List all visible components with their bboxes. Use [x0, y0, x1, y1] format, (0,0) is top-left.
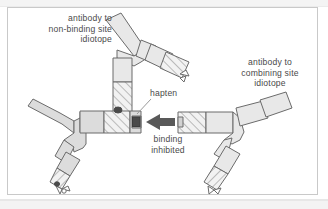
- label-combining-site-idiotope: antibody to combining site idiotope: [222, 57, 318, 89]
- hapten-leader-line: [137, 99, 151, 114]
- figure-root: antibody to non-binding site idiotope an…: [0, 0, 328, 209]
- contact-marker: [114, 107, 122, 113]
- hapten-marker: [133, 117, 141, 127]
- label-non-binding-site-idiotope: antibody to non-binding site idiotope: [22, 13, 112, 45]
- antibody-center: [80, 111, 141, 133]
- label-binding-inhibited: binding inhibited: [122, 134, 214, 155]
- binding-inhibited-arrow: [146, 114, 175, 130]
- bottom-gray-band: [0, 199, 328, 209]
- label-hapten: hapten: [150, 88, 202, 99]
